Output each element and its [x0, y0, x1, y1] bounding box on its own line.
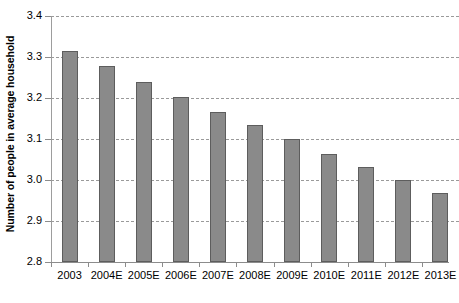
- bar: [247, 125, 263, 262]
- x-axis-tick-label: 2009E: [276, 269, 308, 281]
- y-axis-tick: [45, 139, 51, 140]
- x-axis-tick: [125, 262, 126, 267]
- x-axis-tick: [162, 262, 163, 267]
- y-axis-tick: [45, 16, 51, 17]
- x-axis-tick: [422, 262, 423, 267]
- x-axis-tick: [274, 262, 275, 267]
- x-axis-tick-label: 2004E: [91, 269, 123, 281]
- y-axis-tick-label: 3.4: [0, 9, 42, 21]
- gridline: [51, 16, 459, 17]
- x-axis-ticks: [51, 262, 459, 268]
- y-axis-tick: [45, 221, 51, 222]
- y-axis-tick-label: 2.9: [0, 214, 42, 226]
- y-axis-tick-label: 2.8: [0, 255, 42, 267]
- x-axis-tick: [88, 262, 89, 267]
- bar: [321, 154, 337, 262]
- bar: [358, 167, 374, 262]
- y-axis-tick-label: 3.2: [0, 91, 42, 103]
- x-axis-tick-label: 2007E: [202, 269, 234, 281]
- y-axis-tick-label: 3.1: [0, 132, 42, 144]
- x-axis-tick: [51, 262, 52, 267]
- bar: [432, 193, 448, 262]
- x-axis-tick-label: 2013E: [425, 269, 457, 281]
- x-axis-tick-label: 2005E: [128, 269, 160, 281]
- y-axis-tick: [45, 57, 51, 58]
- x-axis-tick-label: 2003: [57, 269, 81, 281]
- x-axis-tick-label: 2010E: [313, 269, 345, 281]
- plot-area: [51, 16, 459, 262]
- gridline: [51, 57, 459, 58]
- y-axis-tick-label: 3.3: [0, 50, 42, 62]
- x-axis-tick: [311, 262, 312, 267]
- x-axis-tick-label: 2008E: [239, 269, 271, 281]
- x-axis-tick: [348, 262, 349, 267]
- x-axis-tick-label: 2012E: [387, 269, 419, 281]
- bar: [395, 180, 411, 262]
- y-axis-tick: [45, 180, 51, 181]
- bar-chart-figure: Number of people in average household 3.…: [0, 0, 459, 303]
- x-axis-tick-labels: 20032004E2005E2006E2007E2008E2009E2010E2…: [51, 269, 459, 285]
- y-axis-tick-labels: 3.43.33.23.13.02.92.8: [0, 0, 44, 303]
- x-axis-tick: [199, 262, 200, 267]
- figure-caption: [51, 292, 451, 303]
- y-axis-tick-label: 3.0: [0, 173, 42, 185]
- bar: [284, 139, 300, 262]
- x-axis-tick: [236, 262, 237, 267]
- x-axis-tick-label: 2006E: [165, 269, 197, 281]
- bar: [62, 51, 78, 262]
- bar: [136, 82, 152, 262]
- bar: [173, 97, 189, 262]
- x-axis-tick: [385, 262, 386, 267]
- x-axis-tick-label: 2011E: [351, 269, 382, 281]
- bar: [99, 66, 115, 262]
- y-axis-tick: [45, 262, 51, 263]
- bar: [210, 112, 226, 262]
- y-axis-tick: [45, 98, 51, 99]
